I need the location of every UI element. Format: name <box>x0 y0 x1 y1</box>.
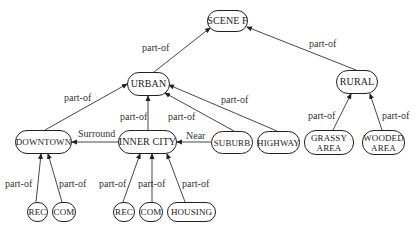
label-grassy-rural: part-of <box>308 110 335 121</box>
node-rec-downtown: REC <box>27 202 48 222</box>
label-housing-innercity: part-of <box>182 178 209 189</box>
label-rural-scene: part-of <box>309 38 336 49</box>
label-suburb-urban: part-of <box>168 111 195 122</box>
node-inner-city: INNER CITY <box>118 130 177 154</box>
node-highway: HIGHWAY <box>257 131 300 154</box>
label-rec-innercity: part-of <box>99 178 126 189</box>
label-urban-scene: part-of <box>142 42 169 53</box>
node-rural: RURAL <box>336 70 378 94</box>
edge-rec-downtown <box>36 154 41 202</box>
node-suburb: SUBURB <box>211 131 253 154</box>
edge-downtown-urban <box>45 84 127 130</box>
label-highway-urban: part-of <box>221 94 248 105</box>
label-wooded-rural: part-of <box>382 110 409 121</box>
node-grassy-area: GRASSYAREA <box>304 130 354 155</box>
label-near: Near <box>186 130 205 141</box>
node-housing: HOUSING <box>167 202 216 222</box>
edges-layer <box>0 0 416 231</box>
edge-wooded-rural <box>370 94 382 130</box>
node-rec-inner-city: REC <box>113 202 135 222</box>
edge-grassy-rural <box>333 94 351 130</box>
label-downtown-urban: part-of <box>64 92 91 103</box>
node-com-inner-city: COM <box>139 202 163 222</box>
label-surround: Surround <box>78 128 115 139</box>
node-downtown: DOWNTOWN <box>15 130 72 154</box>
label-rec-downtown: part-of <box>5 178 32 189</box>
edge-rural-scene <box>247 27 356 70</box>
label-com-innercity: part-of <box>138 178 165 189</box>
node-com-downtown: COM <box>52 202 76 222</box>
node-wooded-area: WOODEDAREA <box>362 130 405 155</box>
node-scene-f: SCENE F <box>207 10 248 32</box>
label-com-downtown: part-of <box>59 178 86 189</box>
label-innercity-urban: part-of <box>120 111 147 122</box>
node-urban: URBAN <box>127 72 170 96</box>
edge-highway-urban <box>169 85 277 131</box>
